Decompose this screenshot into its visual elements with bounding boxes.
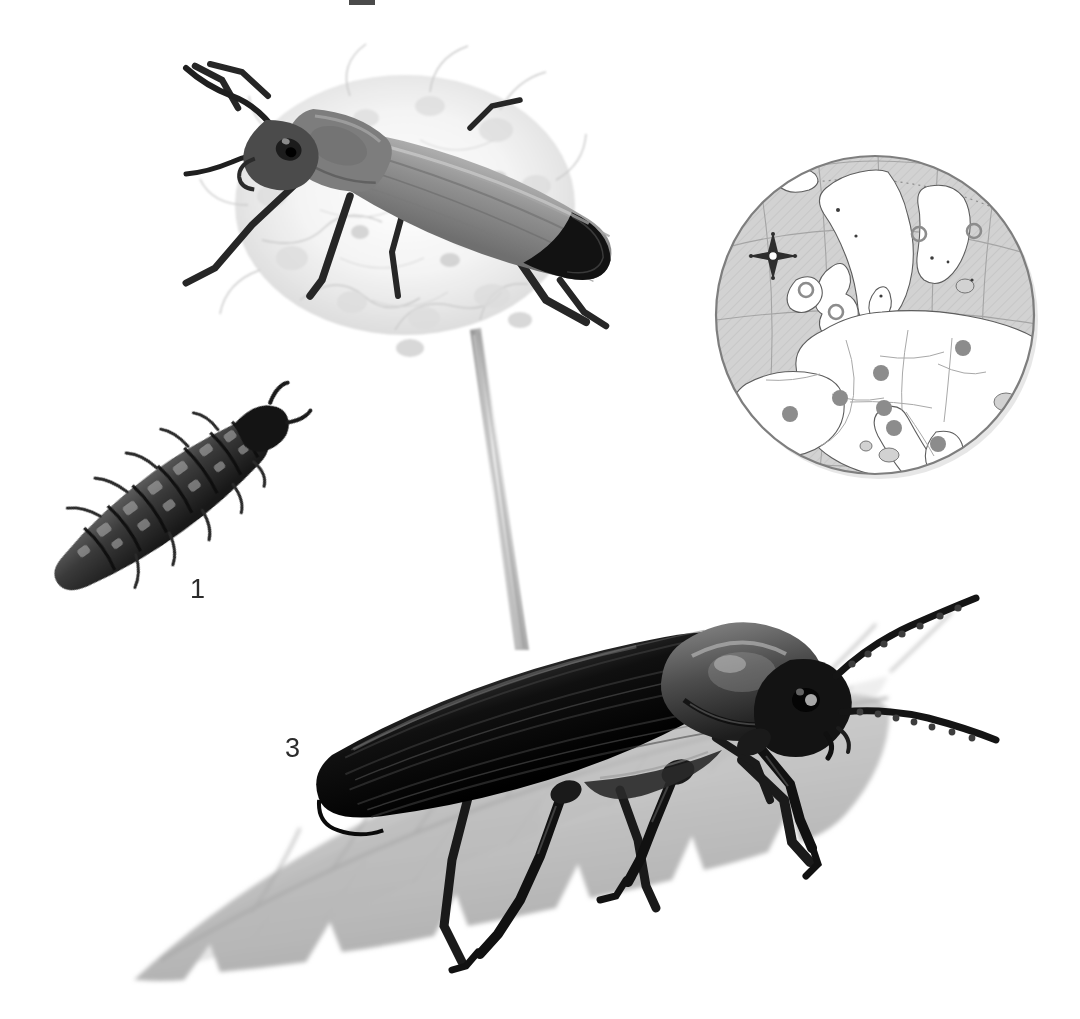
umbel-flower-head-group — [200, 44, 586, 650]
distribution-circle-absent — [829, 305, 843, 319]
adult-beetle-pale-on-flower — [186, 64, 626, 326]
flower-stem — [470, 328, 529, 650]
flower-umbel — [200, 44, 586, 357]
distribution-dot-present — [955, 340, 971, 356]
distribution-dot-present — [886, 420, 902, 436]
beetle-larva — [19, 351, 337, 627]
map-outline — [716, 156, 1034, 474]
distribution-circle-absent — [967, 224, 981, 238]
distribution-dot-present — [930, 436, 946, 452]
absent-distribution-circles — [799, 224, 981, 319]
distribution-dot-present — [873, 365, 889, 381]
present-distribution-dots — [782, 340, 971, 452]
distribution-circle-absent — [799, 283, 813, 297]
map-graticule — [716, 154, 1036, 476]
artwork-layer — [0, 0, 1080, 1019]
head — [754, 659, 852, 758]
adult-beetle-dark-on-leaf — [298, 598, 996, 970]
distribution-dot-present — [782, 406, 798, 422]
compass-rose — [748, 232, 798, 280]
serrated-leaf — [134, 612, 952, 981]
figure-label-1: 1 — [190, 576, 206, 603]
illustration-plate: 1 3 — [0, 0, 1080, 1019]
printers-crop-mark — [349, 0, 375, 5]
antennae — [836, 598, 996, 740]
distribution-circle-absent — [912, 227, 926, 241]
figure-label-3: 3 — [285, 735, 301, 762]
europe-distribution-map — [716, 154, 1066, 491]
landmasses — [731, 168, 1066, 490]
arctic-circle — [730, 179, 1030, 225]
country-borders — [766, 330, 986, 456]
distribution-dot-present — [832, 390, 848, 406]
pronotum — [661, 622, 824, 741]
distribution-dot-present — [876, 400, 892, 416]
